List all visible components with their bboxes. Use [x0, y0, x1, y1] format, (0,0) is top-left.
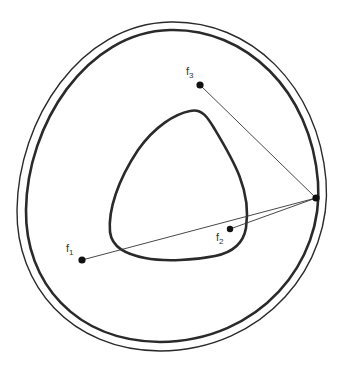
focus-f3-dot [196, 81, 203, 88]
focus-f1-dot [78, 256, 85, 263]
segment-p-f3 [200, 85, 316, 198]
segment-p-f1 [82, 198, 316, 260]
segment-p-f2 [230, 198, 316, 229]
focus-f2-dot [227, 226, 233, 232]
focus-f3-label: f3 [186, 65, 194, 80]
inner-curve [110, 110, 247, 260]
focus-f2-label: f2 [216, 231, 224, 246]
point-p-dot [312, 194, 319, 201]
outer-curve-thick [26, 30, 318, 342]
outer-curve-thin [17, 22, 327, 351]
multifocal-ellipse-diagram: f1 f2 f3 [0, 0, 343, 372]
focus-f1-label: f1 [66, 242, 74, 257]
